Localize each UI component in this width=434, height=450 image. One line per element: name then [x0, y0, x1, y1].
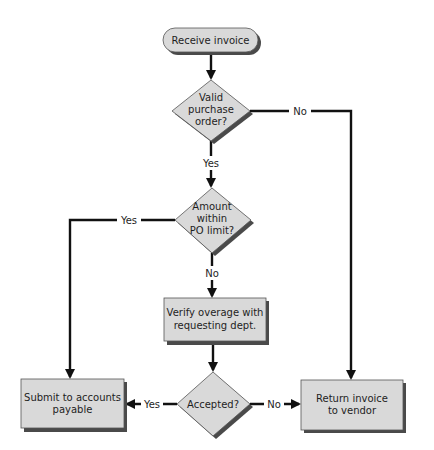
svg-text:Accepted?: Accepted?: [187, 399, 239, 410]
svg-text:PO limit?: PO limit?: [190, 225, 234, 236]
node-submit-to-accounts-payable: Submit to accounts payable: [21, 379, 127, 432]
node-amount-within-po-limit: Amount within PO limit?: [175, 188, 254, 256]
svg-text:Valid: Valid: [199, 92, 223, 103]
node-valid-purchase-order: Valid purchase order?: [172, 80, 253, 144]
svg-text:to vendor: to vendor: [328, 405, 377, 416]
svg-text:Amount: Amount: [192, 201, 231, 212]
edge-label-yes: Yes: [120, 215, 137, 226]
edge-accepted-yes: Yes: [127, 397, 177, 411]
edge-amount-no: No: [202, 253, 222, 296]
svg-text:Submit to accounts: Submit to accounts: [24, 392, 121, 403]
node-receive-invoice: Receive invoice: [163, 28, 261, 55]
svg-text:Verify overage with: Verify overage with: [167, 307, 264, 318]
node-accepted: Accepted?: [177, 372, 253, 439]
svg-text:payable: payable: [53, 404, 93, 415]
edge-amount-yes: Yes: [70, 213, 175, 377]
svg-text:Receive invoice: Receive invoice: [172, 35, 250, 46]
svg-text:within: within: [197, 213, 227, 224]
edge-label-yes: Yes: [143, 399, 160, 410]
svg-text:Return invoice: Return invoice: [316, 393, 388, 404]
edge-label-yes: Yes: [202, 158, 219, 169]
svg-text:requesting dept.: requesting dept.: [174, 320, 257, 331]
svg-text:order?: order?: [195, 116, 227, 127]
edge-accepted-no: No: [250, 397, 299, 411]
edge-label-no: No: [293, 106, 307, 117]
flowchart-canvas: Yes No Yes No Yes No Receive invoice: [0, 0, 434, 450]
node-return-invoice-to-vendor: Return invoice to vendor: [301, 380, 406, 433]
edge-label-no: No: [267, 399, 281, 410]
svg-text:purchase: purchase: [188, 104, 234, 115]
node-verify-overage: Verify overage with requesting dept.: [164, 298, 269, 345]
edge-label-no: No: [205, 268, 219, 279]
edge-valid-yes: Yes: [200, 141, 222, 186]
